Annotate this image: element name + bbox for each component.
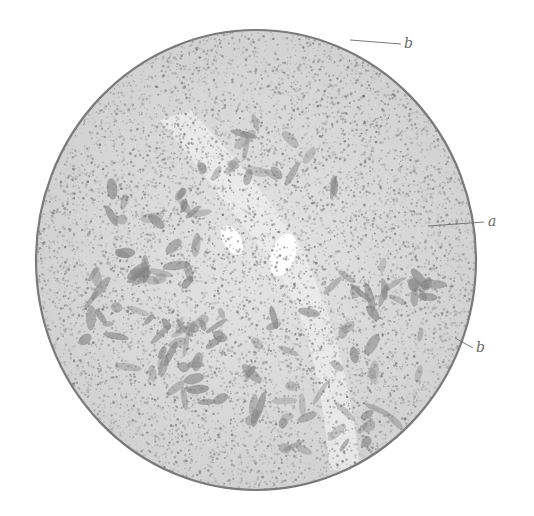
microscope-field-figure: [0, 0, 534, 516]
label-b-top: b: [404, 36, 413, 50]
label-b-top-leader: [350, 40, 401, 44]
label-b-bottom: b: [476, 340, 485, 354]
tissue-field: [35, 30, 477, 491]
label-a: a: [488, 214, 496, 228]
